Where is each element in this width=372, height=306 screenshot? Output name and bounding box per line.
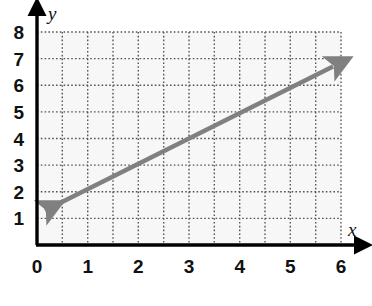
y-tick-label-2: 2 (13, 182, 24, 203)
graph-figure: y x 8 7 6 5 4 3 2 1 0 1 2 3 4 5 6 (0, 0, 372, 306)
y-tick-label-4: 4 (13, 129, 24, 150)
y-tick-label-1: 1 (13, 208, 24, 229)
coordinate-plane-chart: y x 8 7 6 5 4 3 2 1 0 1 2 3 4 5 6 (0, 0, 372, 306)
y-tick-label-5: 5 (13, 102, 24, 123)
x-tick-label-0: 0 (32, 256, 43, 277)
y-tick-label-6: 6 (13, 75, 24, 96)
x-tick-label-4: 4 (234, 256, 245, 277)
x-tick-label-1: 1 (82, 256, 93, 277)
x-tick-label-5: 5 (285, 256, 296, 277)
x-axis-label: x (347, 219, 357, 240)
y-axis-label: y (46, 3, 57, 24)
x-tick-label-6: 6 (336, 256, 347, 277)
x-tick-label-3: 3 (184, 256, 195, 277)
y-tick-label-8: 8 (13, 22, 24, 43)
y-tick-label-7: 7 (13, 49, 24, 70)
y-tick-label-3: 3 (13, 155, 24, 176)
x-tick-label-2: 2 (133, 256, 144, 277)
